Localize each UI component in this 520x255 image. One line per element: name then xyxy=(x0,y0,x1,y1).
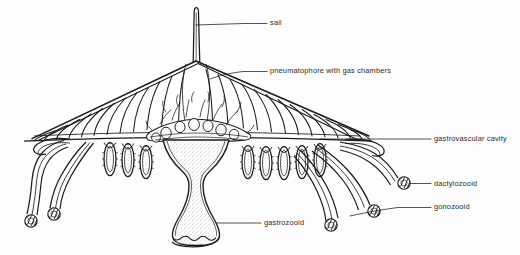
leader-sail xyxy=(196,24,267,26)
label-pneumatophore: pneumatophore with gas chambers xyxy=(270,67,391,74)
label-gastrozooid: gastrozooid xyxy=(264,219,304,226)
label-gastrovascular-cavity: gastrovascular cavity xyxy=(434,135,507,142)
figure-root: sail pneumatophore with gas chambers gas… xyxy=(0,0,520,255)
label-dactylozooid: dactylozooid xyxy=(434,180,477,187)
sail-group xyxy=(193,8,200,62)
gonozooid-row-right xyxy=(240,144,328,180)
label-sail: sail xyxy=(270,19,282,26)
siphonophore-diagram xyxy=(0,0,520,255)
label-gonozooid: gonozooid xyxy=(434,203,470,210)
gastrozooid-group xyxy=(163,140,229,247)
gonozooid-row-left xyxy=(102,142,154,179)
dactylozooid-tentacles-left xyxy=(27,141,94,216)
leader-gonozooid xyxy=(350,208,431,217)
